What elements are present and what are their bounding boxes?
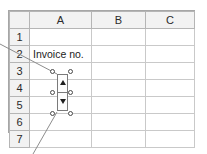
- row-header-3[interactable]: 3: [10, 63, 30, 80]
- selection-handle-top-right[interactable]: [68, 69, 73, 74]
- table-row: 3: [10, 63, 195, 80]
- column-header-b[interactable]: B: [92, 12, 146, 29]
- row-header-2[interactable]: 2: [10, 46, 30, 63]
- cell-b4[interactable]: [92, 80, 146, 97]
- spinner-divider: [58, 92, 67, 93]
- cell-b5[interactable]: [92, 97, 146, 114]
- cell-a1[interactable]: [30, 29, 92, 46]
- column-header-row: A B C: [10, 12, 195, 29]
- cell-c3[interactable]: [146, 63, 195, 80]
- selection-handle-bottom-left[interactable]: [50, 111, 55, 116]
- table-row: 6: [10, 114, 195, 131]
- cell-b6[interactable]: [92, 114, 146, 131]
- cell-c6[interactable]: [146, 114, 195, 131]
- cell-b2[interactable]: [92, 46, 146, 63]
- cell-c7[interactable]: [146, 131, 195, 148]
- column-header-a[interactable]: A: [30, 12, 92, 29]
- cell-c1[interactable]: [146, 29, 195, 46]
- cell-b3[interactable]: [92, 63, 146, 80]
- selection-handle-middle-right[interactable]: [68, 90, 73, 95]
- selection-handle-middle-left[interactable]: [50, 90, 55, 95]
- spreadsheet-grid[interactable]: A B C 1 2 Invoice no.: [8, 10, 195, 133]
- select-all-corner[interactable]: [10, 12, 30, 29]
- cell-b7[interactable]: [92, 131, 146, 148]
- spinner-up-arrow-icon[interactable]: [60, 80, 66, 85]
- row-header-1[interactable]: 1: [10, 29, 30, 46]
- table-row: 5: [10, 97, 195, 114]
- spreadsheet-body: 1 2 Invoice no. 3: [10, 29, 195, 148]
- cell-a7[interactable]: [30, 131, 92, 148]
- cell-b1[interactable]: [92, 29, 146, 46]
- spin-button-body[interactable]: [57, 74, 68, 111]
- cell-a6[interactable]: [30, 114, 92, 131]
- spreadsheet-table: A B C 1 2 Invoice no.: [9, 11, 195, 148]
- row-header-6[interactable]: 6: [10, 114, 30, 131]
- screenshot-canvas: A B C 1 2 Invoice no.: [0, 0, 207, 154]
- cell-c2[interactable]: [146, 46, 195, 63]
- row-header-7[interactable]: 7: [10, 131, 30, 148]
- row-header-4[interactable]: 4: [10, 80, 30, 97]
- cell-c5[interactable]: [146, 97, 195, 114]
- table-row: 4: [10, 80, 195, 97]
- cell-a2[interactable]: Invoice no.: [30, 46, 92, 63]
- table-row: 7: [10, 131, 195, 148]
- spin-button-control[interactable]: [52, 71, 73, 114]
- row-header-5[interactable]: 5: [10, 97, 30, 114]
- spinner-down-arrow-icon[interactable]: [60, 99, 66, 104]
- selection-handle-top-left[interactable]: [50, 69, 55, 74]
- table-row: 1: [10, 29, 195, 46]
- table-row: 2 Invoice no.: [10, 46, 195, 63]
- cell-c4[interactable]: [146, 80, 195, 97]
- column-header-c[interactable]: C: [146, 12, 195, 29]
- selection-handle-bottom-right[interactable]: [68, 111, 73, 116]
